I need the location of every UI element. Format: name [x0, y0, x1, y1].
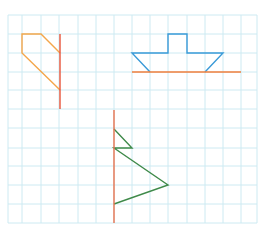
grid-diagram: [0, 0, 273, 240]
grid-lines: [8, 15, 257, 223]
